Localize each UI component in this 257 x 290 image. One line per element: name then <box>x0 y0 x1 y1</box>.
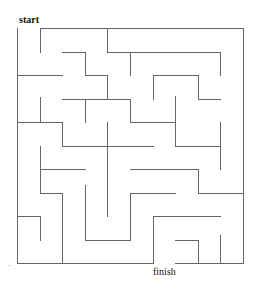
start-label: start <box>19 15 39 25</box>
maze-board <box>0 0 257 290</box>
finish-label: finish <box>153 267 176 277</box>
stray-dot <box>9 265 10 266</box>
